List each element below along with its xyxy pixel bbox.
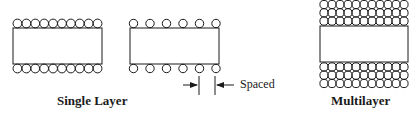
wire-turn-circle: [84, 64, 93, 73]
wire-turn-circle: [368, 0, 376, 8]
wire-turn-circle: [13, 19, 22, 28]
wire-turn-circle: [360, 63, 368, 71]
wire-turn-circle: [376, 63, 384, 71]
wire-turn-circle: [400, 9, 408, 17]
wire-turn-circle: [162, 64, 170, 72]
wire-turn-circle: [84, 19, 93, 28]
wire-turn-circle: [328, 17, 336, 25]
wire-turn-circle: [195, 64, 203, 72]
wire-turn-circle: [352, 17, 360, 25]
wire-turn-circle: [384, 9, 392, 17]
wire-turn-circle: [336, 17, 344, 25]
wire-turn-circle: [360, 17, 368, 25]
wire-turn-circle: [344, 9, 352, 17]
wire-turn-circle: [344, 63, 352, 71]
wire-turn-circle: [328, 0, 336, 8]
wire-turn-circle: [75, 19, 84, 28]
wire-turn-circle: [360, 71, 368, 79]
wire-turn-circle: [146, 64, 154, 72]
wire-turn-circle: [392, 17, 400, 25]
wire-turn-circle: [328, 9, 336, 17]
spacing-indicator: [183, 76, 234, 95]
wire-turn-circle: [376, 17, 384, 25]
wire-turn-circle: [93, 19, 102, 28]
wire-turn-circle: [22, 19, 31, 28]
wire-turn-circle: [360, 0, 368, 8]
wire-turn-circle: [400, 63, 408, 71]
wire-turn-circle: [384, 0, 392, 8]
wire-turn-circle: [328, 71, 336, 79]
core-rect: [13, 28, 102, 64]
wire-turn-circle: [384, 79, 392, 87]
wire-turn-circle: [13, 64, 22, 73]
wire-turn-circle: [344, 79, 352, 87]
single-layer-spaced-panel: [129, 19, 220, 72]
arrowhead-right-icon: [190, 82, 198, 88]
core-rect: [130, 28, 219, 64]
wire-turn-circle: [392, 0, 400, 8]
wire-turn-circle: [352, 79, 360, 87]
multilayer-label: Multilayer: [331, 93, 390, 109]
wire-turn-circle: [320, 9, 328, 17]
core-rect: [320, 26, 408, 62]
wire-turn-circle: [384, 17, 392, 25]
wire-turn-circle: [400, 0, 408, 8]
wire-turn-circle: [162, 19, 170, 27]
arrowhead-left-icon: [216, 82, 224, 88]
wire-turn-circle: [400, 71, 408, 79]
wire-turn-circle: [31, 19, 40, 28]
wire-turn-circle: [352, 0, 360, 8]
wire-turn-circle: [392, 9, 400, 17]
wire-turn-circle: [352, 63, 360, 71]
wire-turn-circle: [392, 71, 400, 79]
wire-turn-circle: [129, 19, 137, 27]
wire-turn-circle: [336, 71, 344, 79]
wire-turn-circle: [376, 9, 384, 17]
wire-turn-circle: [31, 64, 40, 73]
single-layer-label: Single Layer: [57, 93, 127, 109]
wire-turn-circle: [49, 64, 58, 73]
wire-turn-circle: [344, 0, 352, 8]
wire-turn-circle: [146, 19, 154, 27]
wire-turn-circle: [328, 79, 336, 87]
wire-turn-circle: [40, 64, 49, 73]
spaced-label: Spaced: [240, 77, 275, 92]
wire-turn-circle: [392, 79, 400, 87]
wire-turn-circle: [400, 17, 408, 25]
wire-turn-circle: [352, 71, 360, 79]
wire-turn-circle: [368, 17, 376, 25]
wire-turn-circle: [368, 9, 376, 17]
wire-turn-circle: [376, 0, 384, 8]
wire-turn-circle: [336, 9, 344, 17]
wire-turn-circle: [336, 0, 344, 8]
wire-turn-circle: [320, 0, 328, 8]
wire-turn-circle: [49, 19, 58, 28]
wire-turn-circle: [368, 63, 376, 71]
wire-turn-circle: [336, 63, 344, 71]
wire-turn-circle: [66, 19, 75, 28]
wire-turn-circle: [66, 64, 75, 73]
wire-turn-circle: [384, 63, 392, 71]
wire-turn-circle: [336, 79, 344, 87]
wire-turn-circle: [368, 79, 376, 87]
wire-turn-circle: [384, 71, 392, 79]
wire-turn-circle: [320, 17, 328, 25]
single-layer-close-panel: [13, 19, 102, 73]
wire-turn-circle: [320, 71, 328, 79]
wire-turn-circle: [400, 79, 408, 87]
wire-turn-circle: [212, 19, 220, 27]
wire-turn-circle: [58, 64, 67, 73]
wire-turn-circle: [212, 64, 220, 72]
wire-turn-circle: [320, 79, 328, 87]
wire-turn-circle: [328, 63, 336, 71]
wire-turn-circle: [376, 71, 384, 79]
wire-turn-circle: [360, 9, 368, 17]
wire-turn-circle: [22, 64, 31, 73]
wire-turn-circle: [75, 64, 84, 73]
wire-turn-circle: [93, 64, 102, 73]
wire-turn-circle: [344, 17, 352, 25]
wire-turn-circle: [179, 64, 187, 72]
multilayer-panel: [320, 0, 408, 87]
wire-turn-circle: [352, 9, 360, 17]
wire-turn-circle: [40, 19, 49, 28]
